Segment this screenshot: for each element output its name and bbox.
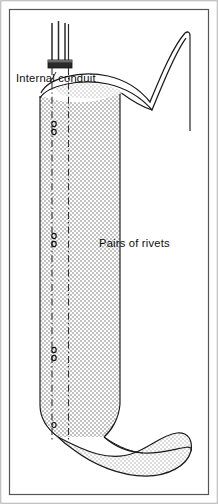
internal-conduit-label: Internal conduit [16,72,96,84]
conduit-collar-highlight [48,60,72,62]
figure-root: Internal conduit Pairs of rivets [0,0,218,504]
diagram-canvas: Internal conduit Pairs of rivets [0,0,218,504]
pairs-of-rivets-label: Pairs of rivets [99,237,170,249]
